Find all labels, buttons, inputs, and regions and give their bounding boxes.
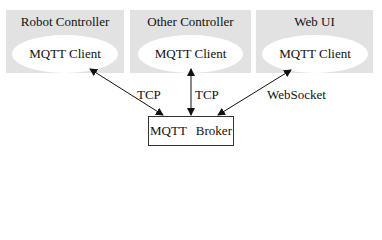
edge-label-tcp-other: TCP: [195, 87, 219, 103]
edge-label-websocket: WebSocket: [267, 87, 326, 103]
mqtt-broker-node: MQTT Broker: [148, 116, 234, 146]
edge-label-tcp-robot: TCP: [137, 87, 161, 103]
